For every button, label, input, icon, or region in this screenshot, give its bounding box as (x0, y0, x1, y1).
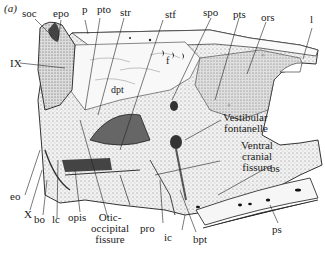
label-pro: pro (140, 223, 155, 234)
label-epo: epo (53, 8, 69, 19)
label-dpt: dpt (111, 84, 124, 95)
label-bo: bo (34, 214, 45, 225)
label-bpt: bpt (193, 234, 207, 245)
label-soc: soc (22, 8, 37, 19)
label-l: l (310, 14, 313, 25)
label-ix: IX (10, 58, 22, 69)
label-ventral-cranial-fissure: Ventral cranial fissure (222, 140, 292, 173)
label-pto: pto (97, 4, 111, 15)
label-ps: ps (272, 224, 282, 235)
braincase-drawing (0, 0, 325, 256)
label-ventral-line3: fissure (242, 161, 271, 173)
label-p: p (82, 4, 88, 15)
label-stf: stf (165, 9, 176, 20)
label-f: f (166, 55, 169, 66)
panel-label: (a) (4, 2, 17, 14)
label-vestibular: Vestibular fontanelle (223, 112, 268, 134)
label-vestibular-line2: fontanelle (223, 122, 268, 134)
label-bs: bs (270, 163, 280, 174)
label-x: X (24, 209, 32, 220)
label-lc: lc (52, 214, 60, 225)
label-str: str (120, 7, 131, 18)
label-spo: spo (203, 7, 218, 18)
label-ic: ic (164, 232, 172, 243)
label-eo: eo (10, 191, 20, 202)
label-pts: pts (233, 9, 246, 20)
label-otic-occipital-fissure: Otic- occipital fissure (80, 212, 140, 245)
label-ors: ors (261, 12, 274, 23)
label-otic-line3: fissure (95, 233, 124, 245)
